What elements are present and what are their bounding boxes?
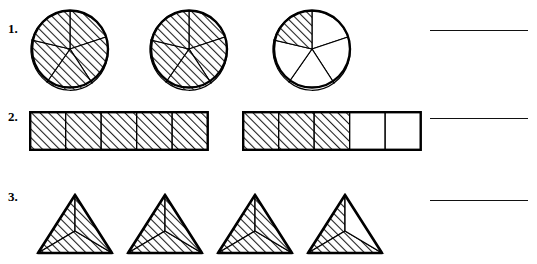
row-2-figures [0, 96, 420, 178]
triangle-3-svg [212, 191, 298, 257]
triangle-4-parts [308, 195, 382, 253]
circle-2-svg [145, 8, 233, 90]
row-3-figures [0, 178, 420, 264]
figure-circle-1 [26, 8, 114, 90]
circle-3-svg [268, 8, 356, 90]
figure-triangle-2 [122, 191, 208, 257]
bar-1-cells [30, 112, 208, 150]
worksheet-row-3: 3. [0, 178, 537, 264]
figure-triangle-3 [212, 191, 298, 257]
figure-bar-1 [29, 111, 209, 151]
circle-1-svg [26, 8, 114, 90]
bar-2-svg [242, 111, 422, 151]
triangle-4-svg [302, 191, 388, 257]
bar-1-svg [29, 111, 209, 151]
triangle-2-parts [128, 195, 202, 253]
row-1-figures [0, 0, 420, 96]
triangle-2-svg [122, 191, 208, 257]
figure-triangle-4 [302, 191, 388, 257]
fractions-worksheet: 1. [0, 0, 537, 264]
triangle-3-parts [218, 195, 292, 253]
figure-circle-2 [145, 8, 233, 90]
figure-bar-2 [242, 111, 422, 151]
answer-line-2[interactable] [430, 118, 528, 119]
answer-line-3[interactable] [430, 200, 528, 201]
answer-line-1[interactable] [430, 30, 528, 31]
worksheet-row-2: 2. [0, 96, 537, 178]
figure-triangle-1 [32, 191, 118, 257]
figure-circle-3 [268, 8, 356, 90]
triangle-1-parts [38, 195, 112, 253]
bar-2-cells [243, 112, 421, 150]
worksheet-row-1: 1. [0, 0, 537, 96]
triangle-1-svg [32, 191, 118, 257]
